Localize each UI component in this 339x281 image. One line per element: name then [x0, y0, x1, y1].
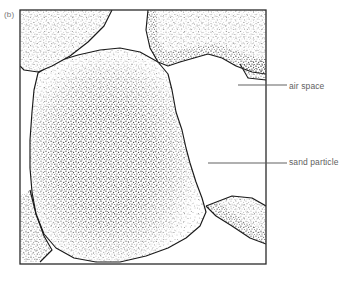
figure-container: (b) air space sand particle	[0, 0, 339, 281]
callout-label-air-space: air space	[289, 81, 324, 91]
panel-label: (b)	[4, 10, 14, 19]
sand-cross-section-diagram	[0, 0, 339, 281]
callout-label-sand-particle: sand particle	[289, 157, 339, 167]
